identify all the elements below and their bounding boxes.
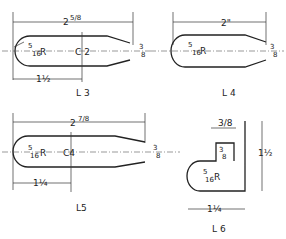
drawing-sheet: 2 5/8 5 16 R C 2 3 8 1½ L 3 2" 5 16 R 3 …: [0, 0, 286, 239]
svg-text:5: 5: [28, 42, 32, 50]
part-l4: 2" 5 16 R 3 8 L 4: [150, 12, 284, 98]
svg-text:7/8: 7/8: [78, 115, 89, 123]
svg-text:2: 2: [63, 17, 69, 27]
svg-text:2: 2: [70, 118, 76, 128]
svg-text:3: 3: [270, 43, 274, 51]
svg-text:8: 8: [222, 153, 226, 161]
svg-text:1¼: 1¼: [207, 204, 222, 214]
svg-text:2": 2": [221, 18, 231, 28]
svg-text:16: 16: [30, 152, 39, 160]
svg-text:R: R: [200, 46, 206, 56]
svg-text:L5: L5: [76, 203, 87, 213]
svg-text:3: 3: [139, 43, 143, 51]
svg-text:R: R: [40, 47, 46, 57]
svg-text:5: 5: [28, 144, 32, 152]
svg-text:L 3: L 3: [76, 88, 90, 98]
svg-text:L 4: L 4: [222, 88, 236, 98]
svg-text:C 2: C 2: [75, 47, 90, 57]
svg-text:R: R: [40, 148, 46, 158]
svg-text:1½: 1½: [258, 148, 273, 158]
svg-text:L 6: L 6: [212, 224, 226, 234]
svg-text:5: 5: [203, 168, 207, 176]
svg-text:8: 8: [273, 51, 277, 59]
svg-text:C4: C4: [63, 148, 75, 158]
svg-text:3/8: 3/8: [218, 118, 233, 128]
svg-text:8: 8: [141, 51, 145, 59]
part-l5: 2 7/8 5 16 R C4 3 8 1¼ L5: [2, 113, 180, 213]
part-l3: 2 5/8 5 16 R C 2 3 8 1½ L 3: [2, 12, 150, 98]
svg-text:1½: 1½: [36, 74, 51, 84]
svg-text:1¼: 1¼: [33, 178, 48, 188]
svg-text:3: 3: [153, 144, 157, 152]
svg-text:5/8: 5/8: [70, 14, 81, 22]
svg-text:8: 8: [156, 152, 160, 160]
svg-text:R: R: [214, 172, 220, 182]
part-l6: 3/8 3 8 1½ 5 16 R 1¼ L 6: [187, 118, 273, 234]
svg-text:5: 5: [188, 41, 192, 49]
